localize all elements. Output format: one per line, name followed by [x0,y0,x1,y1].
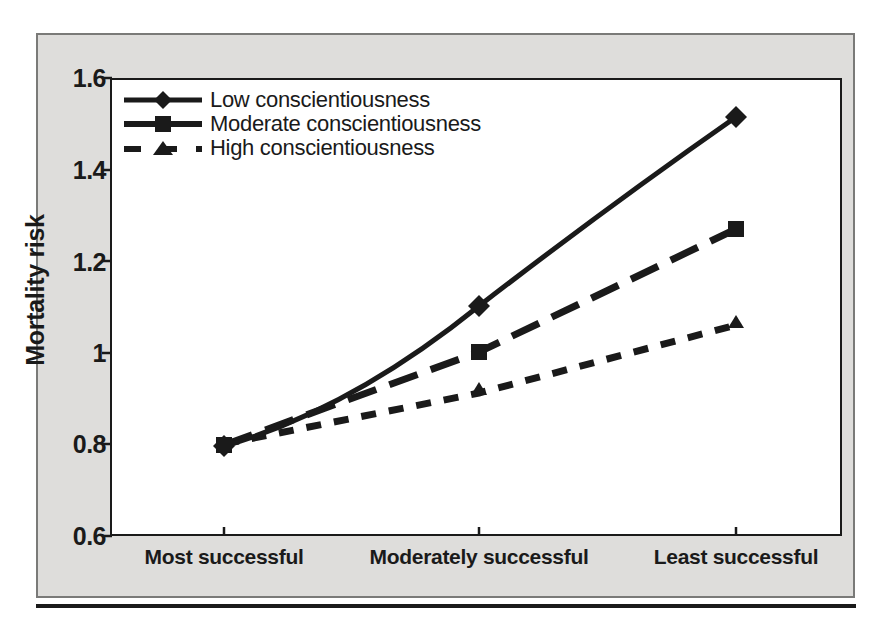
legend-item-high-conscientiousness: High conscientiousness [122,136,552,160]
legend-item-moderate-conscientiousness: Moderate conscientiousness [122,112,552,136]
chart-legend: Low conscientiousness Moderate conscient… [122,88,552,160]
legend-label-low: Low conscientiousness [204,87,430,113]
series-line-moderate-conscientiousness [224,229,736,445]
series-line-low-conscientiousness [224,117,736,446]
legend-sample-high [122,136,204,160]
legend-item-low-conscientiousness: Low conscientiousness [122,88,552,112]
diamond-marker [154,91,172,109]
legend-label-moderate: Moderate conscientiousness [204,111,481,137]
series-markers-high-conscientiousness [216,315,744,449]
figure-container: 1.6 1.4 1.2 1 0.8 0.6 Mortality risk Mos… [0,0,894,632]
x-axis-ticks [224,527,736,536]
square-marker [155,116,171,132]
legend-label-high: High conscientiousness [204,135,435,161]
legend-sample-low [122,88,204,112]
bottom-divider [36,604,856,608]
legend-sample-moderate [122,112,204,136]
y-axis-ticks [102,78,112,536]
